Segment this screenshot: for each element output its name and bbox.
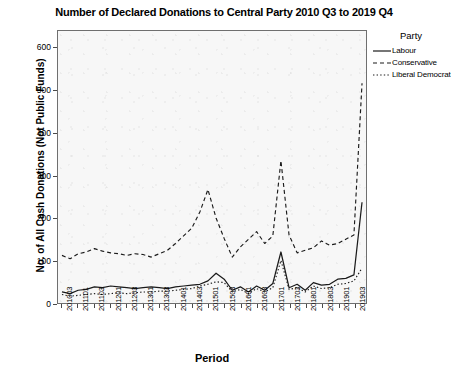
y-tick-label: 300 [17,171,51,181]
y-tick-mark [53,261,57,262]
y-tick-mark [53,176,57,177]
x-tick-label: 201103 [97,287,106,311]
y-tick-label: 100 [17,256,51,266]
y-tick-mark [53,133,57,134]
x-tick-mark [306,304,307,308]
x-tick-mark [175,304,176,308]
legend-entries: LabourConservativeLiberal Democrat [372,45,448,80]
series-line-labour [62,202,362,293]
y-tick-label: 500 [17,85,51,95]
x-tick-label: 201101 [81,287,90,311]
x-tick-label: 201201 [114,287,123,311]
x-tick-mark [224,304,225,308]
x-tick-label: 201801 [309,287,318,311]
x-tick-label: 201603 [260,287,269,311]
plot-panel [57,30,367,304]
x-tick-label: 201703 [293,287,302,311]
x-tick-label: 201803 [326,287,335,311]
x-tick-label: 201903 [358,287,367,311]
legend-line-icon [372,58,392,68]
x-tick-mark [273,304,274,308]
y-tick-mark [53,218,57,219]
y-tick-label: 400 [17,128,51,138]
x-tick-label: 201901 [342,287,351,311]
x-tick-mark [290,304,291,308]
x-tick-label: 201601 [244,287,253,311]
x-axis-label: Period [57,352,367,364]
x-tick-label: 201501 [211,287,220,311]
legend: Party LabourConservativeLiberal Democrat [372,30,448,81]
y-tick-label: 200 [17,213,51,223]
x-tick-mark [94,304,95,308]
legend-item-labour[interactable]: Labour [372,45,448,56]
x-tick-mark [61,304,62,308]
x-tick-mark [110,304,111,308]
y-tick-mark [53,304,57,305]
x-tick-mark [241,304,242,308]
x-tick-label: 201301 [146,287,155,311]
legend-label: Labour [392,46,416,55]
x-tick-mark [159,304,160,308]
x-tick-mark [257,304,258,308]
x-tick-label: 201403 [195,287,204,311]
x-tick-mark [322,304,323,308]
series-line-conservative [62,83,362,259]
x-tick-label: 201401 [179,287,188,311]
legend-title: Party [372,30,448,41]
x-tick-mark [143,304,144,308]
chart-title: Number of Declared Donations to Central … [0,6,448,18]
legend-line-icon [372,70,392,80]
legend-line-icon [372,46,392,56]
legend-label: Liberal Democrat [392,70,451,79]
y-tick-mark [53,47,57,48]
y-tick-mark [53,90,57,91]
legend-item-conservative[interactable]: Conservative [372,57,448,68]
x-tick-mark [339,304,340,308]
x-tick-label: 201503 [228,287,237,311]
x-tick-label: 201203 [130,287,139,311]
x-tick-label: 201303 [162,287,171,311]
x-tick-mark [126,304,127,308]
x-tick-mark [355,304,356,308]
x-tick-mark [77,304,78,308]
legend-label: Conservative [392,58,437,67]
plot-lines [58,31,366,303]
legend-item-liberal-democrat[interactable]: Liberal Democrat [372,69,448,80]
x-tick-mark [192,304,193,308]
x-tick-mark [208,304,209,308]
x-tick-label: 201701 [277,287,286,311]
x-tick-label: 201003 [65,287,74,311]
y-tick-label: 600 [17,42,51,52]
y-tick-label: 0 [17,299,51,309]
